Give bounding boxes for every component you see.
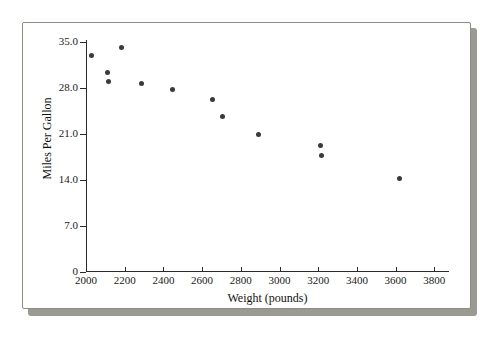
y-tick-mark (80, 180, 86, 181)
y-tick-mark (80, 42, 86, 43)
data-point (319, 153, 324, 158)
x-tick-label: 3000 (260, 275, 300, 286)
x-tick-mark (318, 267, 319, 272)
data-point (106, 79, 111, 84)
scatter-plot-card: 07.014.021.028.035.0 2000220024002600280… (22, 22, 471, 309)
y-tick-mark (80, 272, 86, 273)
x-axis-title: Weight (pounds) (86, 291, 449, 306)
data-point (170, 87, 175, 92)
data-point (256, 132, 261, 137)
y-tick-mark (80, 134, 86, 135)
x-tick-mark (396, 267, 397, 272)
x-tick-label: 2400 (143, 275, 183, 286)
x-tick-label: 2000 (66, 275, 106, 286)
x-tick-mark (434, 267, 435, 272)
y-tick-mark (80, 88, 86, 89)
data-point (210, 97, 215, 102)
x-axis-line (86, 271, 449, 272)
data-point (139, 81, 144, 86)
x-tick-label: 3800 (414, 275, 454, 286)
x-tick-mark (125, 267, 126, 272)
plot-area: 07.014.021.028.035.0 2000220024002600280… (23, 23, 470, 308)
data-point (105, 70, 110, 75)
y-axis-line (86, 40, 87, 272)
figure-root: 07.014.021.028.035.0 2000220024002600280… (0, 0, 496, 347)
x-tick-mark (241, 267, 242, 272)
data-point (89, 53, 94, 58)
data-point (119, 45, 124, 50)
y-axis-title: Miles Per Gallon (40, 59, 55, 219)
x-tick-label: 2200 (105, 275, 145, 286)
x-tick-label: 2800 (221, 275, 261, 286)
x-tick-mark (357, 267, 358, 272)
x-tick-mark (202, 267, 203, 272)
x-tick-label: 3400 (337, 275, 377, 286)
y-tick-label: 35.0 (38, 36, 78, 47)
data-point (220, 114, 225, 119)
x-tick-mark (163, 267, 164, 272)
x-tick-mark (86, 267, 87, 272)
data-point (318, 143, 323, 148)
x-tick-label: 3200 (298, 275, 338, 286)
x-tick-mark (280, 267, 281, 272)
y-tick-label: 7.0 (38, 220, 78, 231)
data-point (397, 176, 402, 181)
x-tick-label: 3600 (376, 275, 416, 286)
x-tick-label: 2600 (182, 275, 222, 286)
y-tick-mark (80, 226, 86, 227)
